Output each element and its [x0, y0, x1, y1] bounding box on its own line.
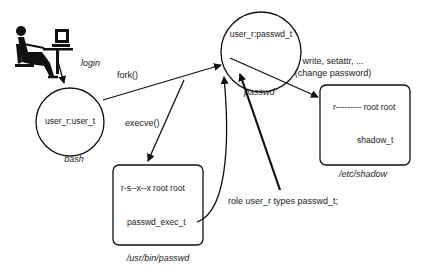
passwd-process-circle	[221, 12, 301, 92]
fork-label: fork()	[117, 71, 138, 80]
passwd-file-permissions: r-s--x--x root root	[121, 184, 185, 193]
shadow-file-box	[320, 85, 410, 165]
role-statement-label: role user_r types passwd_t;	[228, 197, 338, 206]
bash-caption: bash	[64, 155, 84, 164]
shadow-type: shadow_t	[357, 136, 393, 145]
person-at-computer-icon	[15, 26, 73, 77]
passwd-file-caption: /usr/bin/passwd	[127, 254, 190, 263]
entrypoint-arrow	[197, 77, 227, 222]
write-label-line1: write, setattr, ...	[302, 57, 363, 66]
login-label: login	[81, 59, 100, 68]
passwd-file-box	[113, 165, 203, 245]
write-label-line2: (change password)	[295, 69, 372, 78]
shadow-caption: /etc/shadow	[339, 170, 387, 179]
passwd-domain-label: user_r:passwd_t	[230, 30, 292, 39]
passwd-file-type: passwd_exec_t	[127, 218, 186, 227]
shadow-permissions: r--------- root root	[333, 103, 395, 112]
passwd-caption: passwd	[244, 88, 275, 97]
bash-domain-label: user_r:user_t	[45, 117, 95, 126]
execve-label: execve()	[125, 119, 160, 128]
